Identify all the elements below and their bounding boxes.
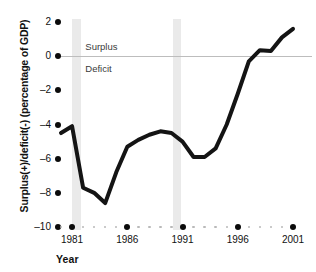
series-layer [0,0,316,272]
chart-figure: Surplus(+)/deficit(-) (percentage of GDP… [0,0,316,272]
plot-area: 20–2–4–6–8–1019811986199119962001Surplus… [0,0,316,272]
x-axis-title: Year [56,253,79,265]
series-line [61,29,293,203]
